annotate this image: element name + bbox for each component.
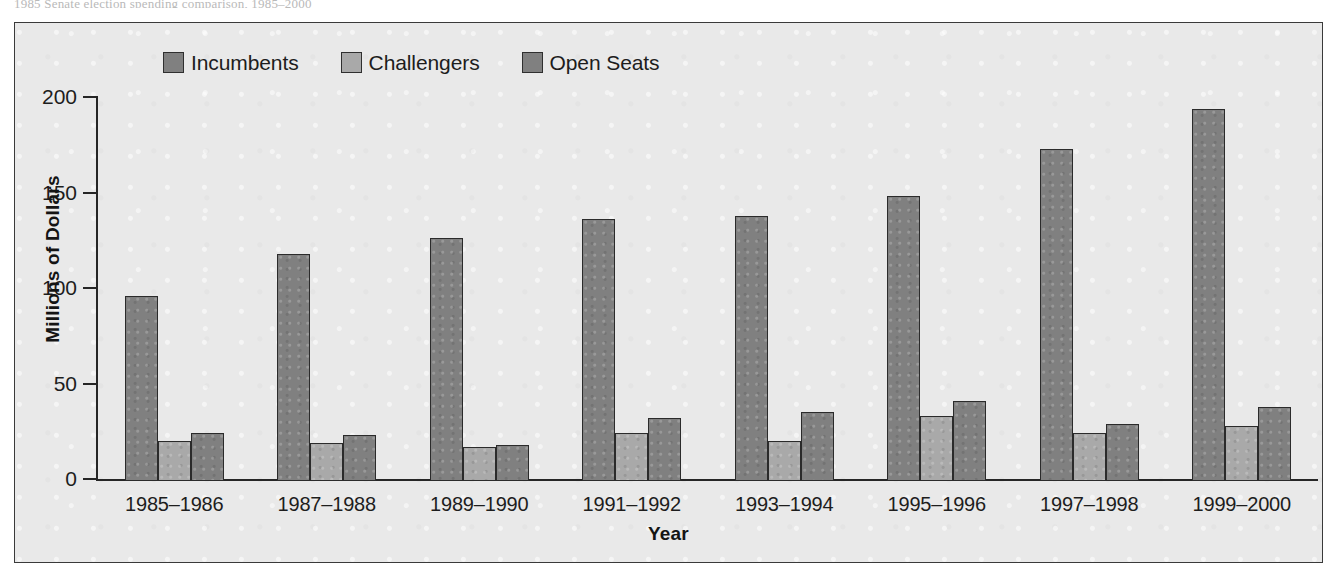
y-tick-150	[83, 192, 98, 194]
x-category-label: 1995–1996	[861, 489, 1014, 519]
y-tick-label-200: 200	[21, 86, 77, 107]
bar-incumbents[interactable]	[735, 216, 768, 481]
x-axis-category-labels: 1985–19861987–19881989–19901991–19921993…	[98, 489, 1318, 519]
y-axis-title: Millions of Dollars	[42, 129, 64, 389]
bar-open-seats[interactable]	[1106, 424, 1139, 481]
x-category-label: 1991–1992	[556, 489, 709, 519]
x-category-label: 1997–1998	[1013, 489, 1166, 519]
bar-group	[708, 97, 861, 481]
bar-open-seats[interactable]	[191, 433, 224, 481]
bar-incumbents[interactable]	[125, 296, 158, 481]
bar-group	[1013, 97, 1166, 481]
bar-incumbents[interactable]	[582, 219, 615, 481]
bar-challengers[interactable]	[463, 447, 496, 481]
cut-off-caption: 1985 Senate election spending comparison…	[14, 0, 1325, 8]
plot-area: 050100150200 Millions of Dollars 1985–19…	[15, 23, 1322, 562]
chart-figure-frame: Incumbents Challengers Open Seats 050100…	[14, 22, 1323, 563]
bar-group	[556, 97, 709, 481]
bar-challengers[interactable]	[310, 443, 343, 481]
bar-group	[403, 97, 556, 481]
y-tick-label-0: 0	[21, 468, 77, 489]
bar-challengers[interactable]	[158, 441, 191, 481]
x-category-label: 1989–1990	[403, 489, 556, 519]
x-axis-title: Year	[15, 523, 1322, 545]
y-tick-100	[83, 287, 98, 289]
bar-incumbents[interactable]	[430, 238, 463, 481]
bar-challengers[interactable]	[1225, 426, 1258, 481]
x-category-label: 1993–1994	[708, 489, 861, 519]
y-tick-0	[83, 478, 98, 480]
bar-open-seats[interactable]	[1258, 407, 1291, 481]
bar-open-seats[interactable]	[953, 401, 986, 481]
bar-open-seats[interactable]	[496, 445, 529, 481]
bar-groups	[98, 97, 1318, 481]
bar-incumbents[interactable]	[277, 254, 310, 481]
bar-group	[861, 97, 1014, 481]
bar-group	[251, 97, 404, 481]
bar-open-seats[interactable]	[648, 418, 681, 481]
x-category-label: 1987–1988	[251, 489, 404, 519]
x-category-label: 1985–1986	[98, 489, 251, 519]
bar-open-seats[interactable]	[801, 412, 834, 481]
bar-challengers[interactable]	[768, 441, 801, 481]
bar-challengers[interactable]	[615, 433, 648, 481]
bar-challengers[interactable]	[920, 416, 953, 481]
bar-incumbents[interactable]	[1192, 109, 1225, 481]
bar-group	[1166, 97, 1319, 481]
bar-challengers[interactable]	[1073, 433, 1106, 481]
bar-open-seats[interactable]	[343, 435, 376, 481]
y-tick-50	[83, 383, 98, 385]
bar-group	[98, 97, 251, 481]
bar-incumbents[interactable]	[887, 196, 920, 481]
y-tick-200	[83, 96, 98, 98]
bar-incumbents[interactable]	[1040, 149, 1073, 481]
x-category-label: 1999–2000	[1166, 489, 1319, 519]
